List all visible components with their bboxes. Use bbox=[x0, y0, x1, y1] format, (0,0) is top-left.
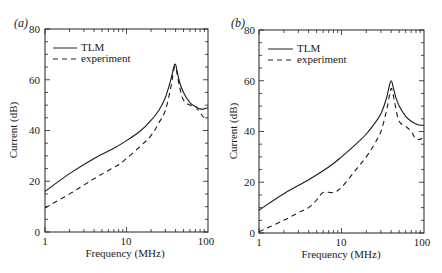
panel-a-xlabel: Frequency (MHz) bbox=[85, 247, 164, 260]
panel-b-ytick-20: 20 bbox=[244, 176, 256, 188]
panel-a-xtick-1: 1 bbox=[42, 235, 48, 247]
panel-b-experiment-line bbox=[259, 88, 424, 231]
panel-b-ytick-40: 40 bbox=[244, 125, 256, 137]
panel-b: (b) 80 60 40 20 0 1 10 100 Frequency (MH… bbox=[227, 16, 431, 261]
panel-b-label: (b) bbox=[231, 16, 245, 30]
panel-a-ytick-20: 20 bbox=[29, 175, 41, 187]
panel-a-ylabel: Current (dB) bbox=[7, 101, 20, 158]
panel-a-xtick-100: 100 bbox=[198, 235, 215, 247]
panel-b-ytick-80: 80 bbox=[244, 24, 256, 36]
panel-a-tlm-line bbox=[45, 64, 208, 191]
panel-a-ytick-60: 60 bbox=[29, 74, 41, 86]
panel-b-legend-experiment: experiment bbox=[297, 53, 346, 65]
panel-b-xlabel: Frequency (MHz) bbox=[301, 248, 380, 261]
panel-a-ytick-80: 80 bbox=[29, 23, 41, 35]
figure: (a) 80 60 40 20 0 1 10 100 Frequency (MH… bbox=[0, 0, 442, 273]
panel-a: (a) 80 60 40 20 0 1 10 100 Frequency (MH… bbox=[7, 16, 215, 260]
panel-a-ytick-0: 0 bbox=[35, 226, 41, 238]
panel-a-xtick-10: 10 bbox=[121, 235, 133, 247]
panel-a-label: (a) bbox=[14, 16, 28, 30]
panel-b-xtick-10: 10 bbox=[336, 236, 348, 248]
panel-a-experiment-line bbox=[45, 66, 208, 207]
panel-a-legend-experiment: experiment bbox=[81, 52, 130, 64]
panel-b-xtick-1: 1 bbox=[256, 236, 262, 248]
panel-b-ylabel: Current (dB) bbox=[227, 102, 240, 159]
panel-b-ytick-60: 60 bbox=[244, 75, 256, 87]
panel-a-ytick-40: 40 bbox=[29, 124, 41, 136]
panel-b-xtick-100: 100 bbox=[414, 236, 431, 248]
panel-b-tlm-line bbox=[259, 81, 424, 210]
panel-b-ytick-0: 0 bbox=[250, 227, 256, 239]
